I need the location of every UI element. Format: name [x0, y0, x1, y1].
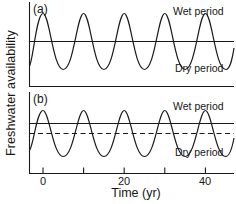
panel-b-dry-period-label: Dry period — [175, 146, 223, 158]
panel-a-letter: (a) — [33, 2, 48, 16]
x-tick-label-0: 0 — [31, 175, 55, 187]
panel-a-dry-period-label: Dry period — [175, 62, 223, 74]
panel-a-wet-period-label: Wet period — [173, 5, 224, 17]
panel-b-wet-period-label: Wet period — [173, 100, 224, 112]
figure-container: Freshwater availability — [0, 0, 236, 204]
x-axis-label: Time (yr) — [86, 186, 186, 200]
panel-b-x-ticks — [43, 168, 205, 174]
x-tick-label-40: 40 — [193, 175, 217, 187]
panel-b-letter: (b) — [33, 92, 48, 106]
